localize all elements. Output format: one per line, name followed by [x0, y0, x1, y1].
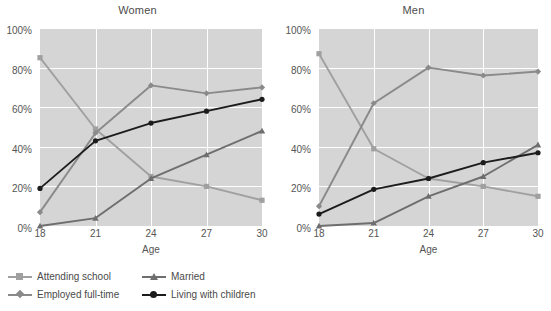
legend-label: Married: [171, 271, 205, 282]
series-layer: [319, 28, 538, 226]
y-tick-label: 40%: [12, 143, 32, 154]
data-point-marker: [204, 109, 209, 114]
chart-page: Women 0%20%40%60%80%100% 1821242730 Age …: [0, 0, 551, 311]
plot-wrapper-men: 0%20%40%60%80%100% 1821242730 Age: [276, 26, 551, 231]
data-point-marker: [37, 186, 42, 191]
data-point-marker: [535, 194, 540, 199]
legend-label: Employed full-time: [37, 289, 119, 300]
plot-area-women: [40, 28, 262, 226]
y-tick-label: 60%: [291, 104, 311, 115]
y-axis-labels-women: 0%20%40%60%80%100%: [0, 28, 36, 226]
y-tick-label: 80%: [12, 64, 32, 75]
series-line: [319, 145, 538, 226]
data-point-marker: [259, 84, 265, 90]
y-tick-label: 0%: [297, 223, 311, 234]
data-point-marker: [481, 184, 486, 189]
y-tick-label: 60%: [12, 104, 32, 115]
legend-label: Living with children: [171, 289, 256, 300]
y-tick-label: 80%: [291, 64, 311, 75]
data-point-marker: [204, 184, 209, 189]
series-line: [319, 54, 538, 197]
series-layer: [40, 28, 262, 226]
series-line: [319, 153, 538, 214]
series-line: [40, 85, 262, 212]
legend-marker-circle-icon: [142, 290, 166, 300]
data-point-marker: [426, 176, 431, 181]
chart-panel-women: Women 0%20%40%60%80%100% 1821242730 Age …: [0, 0, 275, 265]
x-tick-label: 24: [145, 228, 156, 239]
data-point-marker: [259, 128, 265, 134]
data-point-marker: [371, 146, 376, 151]
y-tick-label: 0%: [18, 223, 32, 234]
legend-marker-square-icon: [8, 272, 32, 282]
data-point-marker: [535, 150, 540, 155]
data-point-marker: [259, 198, 264, 203]
series-line: [319, 68, 538, 207]
x-axis-labels-women: 1821242730: [40, 228, 262, 244]
y-tick-label: 20%: [12, 183, 32, 194]
series-married: [316, 142, 541, 229]
x-tick-label: 30: [256, 228, 267, 239]
x-tick-label: 21: [90, 228, 101, 239]
legend-item[interactable]: Living with children: [142, 289, 256, 300]
legend-marker-triangle-icon: [142, 272, 166, 282]
x-tick-label: 30: [532, 228, 543, 239]
chart-title-women: Women: [0, 4, 275, 16]
data-point-marker: [371, 187, 376, 192]
data-point-marker: [316, 212, 321, 217]
x-tick-label: 27: [478, 228, 489, 239]
legend-women: Attending schoolMarriedEmployed full-tim…: [0, 266, 275, 311]
plot-wrapper-women: 0%20%40%60%80%100% 1821242730 Age: [0, 26, 275, 231]
legend-item[interactable]: Employed full-time: [8, 289, 136, 300]
data-point-marker: [93, 138, 98, 143]
x-axis-title-women: Age: [40, 244, 262, 255]
x-tick-label: 18: [313, 228, 324, 239]
series-living-with-children: [316, 150, 540, 217]
y-tick-label: 100%: [285, 25, 311, 36]
x-tick-label: 24: [423, 228, 434, 239]
series-married: [37, 128, 265, 229]
series-employed-full-time: [37, 82, 265, 215]
x-tick-label: 18: [34, 228, 45, 239]
y-tick-label: 40%: [291, 143, 311, 154]
data-point-marker: [316, 51, 321, 56]
legend-grid-women: Attending schoolMarriedEmployed full-tim…: [8, 271, 256, 300]
chart-panel-men: Men 0%20%40%60%80%100% 1821242730 Age At…: [276, 0, 551, 265]
legend-label: Attending school: [37, 271, 111, 282]
data-point-marker: [535, 68, 541, 74]
legend-item[interactable]: Married: [142, 271, 256, 282]
x-tick-label: 27: [201, 228, 212, 239]
legend-marker-diamond-icon: [8, 290, 32, 300]
data-point-marker: [203, 90, 209, 96]
x-axis-labels-men: 1821242730: [319, 228, 538, 244]
y-axis-labels-men: 0%20%40%60%80%100%: [276, 28, 315, 226]
chart-title-men: Men: [276, 4, 551, 16]
x-axis-title-men: Age: [319, 244, 538, 255]
x-tick-label: 21: [368, 228, 379, 239]
data-point-marker: [37, 55, 42, 60]
data-point-marker: [480, 72, 486, 78]
plot-area-men: [319, 28, 538, 226]
data-point-marker: [481, 160, 486, 165]
legend-item[interactable]: Attending school: [8, 271, 136, 282]
data-point-marker: [259, 97, 264, 102]
series-employed-full-time: [316, 65, 541, 210]
data-point-marker: [148, 120, 153, 125]
gridline-vertical: [262, 28, 263, 226]
data-point-marker: [535, 142, 541, 148]
y-tick-label: 100%: [6, 25, 32, 36]
y-tick-label: 20%: [291, 183, 311, 194]
